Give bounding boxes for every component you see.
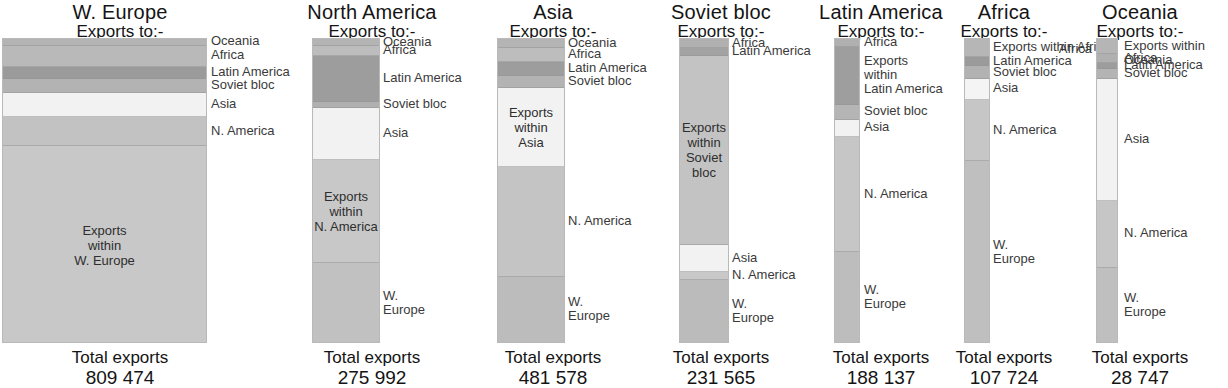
stacked-bar: Exports within Asia — [497, 38, 565, 343]
bar-segment — [680, 272, 728, 280]
bar-segment: Exports within Asia — [498, 88, 564, 167]
stacked-bar: Exports within Soviet bloc — [679, 38, 729, 343]
total-exports-value: 275 992 — [283, 367, 461, 388]
bar-segment: Exports within N. America — [313, 160, 379, 264]
segment-inner-label: Exports within Soviet bloc — [680, 120, 728, 180]
bar-segment — [835, 120, 859, 137]
segment-callout-label: W. Europe — [383, 289, 425, 317]
segment-callout-label: Africa — [211, 48, 244, 62]
total-exports-value: 231 565 — [640, 367, 802, 388]
segment-callout-label: Asia — [211, 97, 236, 111]
bar-segment — [680, 48, 728, 56]
bar-segment — [313, 39, 379, 46]
segment-callout-label: Oceania — [211, 34, 259, 48]
bar-segment — [680, 245, 728, 272]
segment-callout-label: Asia — [993, 81, 1018, 95]
segment-inner-label: Exports within Asia — [498, 104, 564, 149]
stacked-bar: Exports within N. America — [312, 38, 380, 343]
total-exports-value: 28 747 — [1052, 367, 1228, 388]
bar-segment — [313, 108, 379, 160]
bar-segment — [965, 66, 989, 78]
bar-segment — [835, 47, 859, 105]
total-exports-value: 481 578 — [468, 367, 638, 388]
bar-segment — [1097, 79, 1117, 201]
total-exports-label: Total exports — [640, 348, 802, 368]
bar-segment — [3, 117, 206, 146]
bar-segment — [680, 39, 728, 48]
segment-callout-label-extra: Africa — [1052, 42, 1092, 56]
segment-callout-label: W. Europe — [864, 283, 906, 311]
bar-segment — [313, 263, 379, 343]
segment-callout-label: Soviet bloc — [568, 74, 632, 88]
panel-title: Soviet bloc — [640, 1, 802, 24]
bar-segment — [498, 277, 564, 343]
segment-callout-label: N. America — [568, 214, 632, 228]
bar-segment — [313, 46, 379, 56]
bar-segment — [3, 46, 206, 67]
segment-callout-label: Africa — [383, 43, 416, 57]
bar-segment — [1097, 39, 1117, 54]
total-exports-label: Total exports — [0, 348, 240, 368]
bar-segment — [835, 137, 859, 253]
stacked-bar — [964, 38, 990, 343]
bar-segment — [3, 79, 206, 93]
segment-callout-label: W. Europe — [1124, 291, 1166, 319]
bar-segment — [835, 39, 859, 47]
segment-callout-label: W. Europe — [993, 238, 1035, 266]
segment-callout-label: Soviet bloc — [1124, 66, 1188, 80]
stacked-bar: Exports within W. Europe — [2, 38, 207, 343]
segment-callout-label: Soviet bloc — [864, 104, 928, 118]
bar-segment — [835, 252, 859, 343]
total-exports-value: 809 474 — [0, 367, 240, 388]
panel-title: W. Europe — [0, 1, 240, 24]
bar-segment — [680, 280, 728, 343]
segment-callout-label: N. America — [993, 123, 1057, 137]
bar-segment — [965, 79, 989, 100]
bar-segment — [965, 57, 989, 66]
segment-callout-label: Asia — [1124, 132, 1149, 146]
bar-segment — [1097, 69, 1117, 78]
total-exports-label: Total exports — [1052, 348, 1228, 368]
bar-segment — [313, 56, 379, 102]
total-exports-label: Total exports — [283, 348, 461, 368]
segment-callout-label: Latin America — [383, 71, 462, 85]
total-exports-label: Total exports — [468, 348, 638, 368]
bar-segment — [1097, 268, 1117, 343]
panel-title: Asia — [468, 1, 638, 24]
bar-segment — [498, 62, 564, 76]
bar-segment — [3, 39, 206, 46]
segment-callout-label: Soviet bloc — [993, 65, 1057, 79]
bar-segment — [965, 100, 989, 161]
bar-segment — [498, 76, 564, 88]
stacked-bar — [834, 38, 860, 343]
bar-segment — [965, 39, 989, 57]
bar-segment — [3, 67, 206, 79]
segment-callout-label: Soviet bloc — [383, 97, 447, 111]
bar-segment — [835, 105, 859, 120]
bar-segment — [498, 167, 564, 277]
segment-callout-label: N. America — [1124, 226, 1188, 240]
segment-inner-label: Exports within W. Europe — [3, 223, 206, 268]
segment-callout-label: N. America — [864, 187, 928, 201]
segment-callout-label: W. Europe — [732, 297, 774, 325]
bar-segment — [3, 93, 206, 117]
segment-callout-label: Asia — [383, 126, 408, 140]
bar-segment: Exports within Soviet bloc — [680, 56, 728, 245]
bar-segment — [498, 48, 564, 62]
bar-segment — [498, 39, 564, 48]
bar-segment — [1097, 54, 1117, 63]
bar-segment — [1097, 201, 1117, 268]
panel-title: North America — [283, 1, 461, 24]
segment-callout-label: Africa — [568, 47, 601, 61]
bar-segment: Exports within W. Europe — [3, 146, 206, 343]
panel-title: Oceania — [1052, 1, 1228, 24]
segment-callout-label: W. Europe — [568, 295, 610, 323]
segment-callout-label: N. America — [732, 268, 796, 282]
stacked-bar — [1096, 38, 1118, 343]
segment-callout-label: Asia — [732, 251, 757, 265]
bar-segment — [965, 161, 989, 343]
segment-callout-label: N. America — [211, 124, 275, 138]
segment-callout-label: Africa — [864, 35, 897, 49]
segment-callout-label: Soviet bloc — [211, 78, 275, 92]
